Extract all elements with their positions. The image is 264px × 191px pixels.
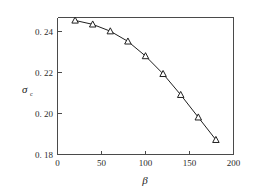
x-tick-label: 0 — [55, 158, 60, 168]
x-axis-title: β — [141, 174, 148, 186]
x-tick-label: 50 — [97, 158, 107, 168]
x-tick-label: 200 — [227, 158, 241, 168]
y-tick-label: 0. 20 — [35, 109, 54, 119]
y-tick-label: 0. 22 — [35, 68, 53, 78]
y-axis-title-subscript: c — [30, 91, 33, 97]
y-tick-label: 0. 18 — [35, 150, 54, 160]
y-tick-label: 0. 24 — [35, 27, 54, 37]
line-chart: 0. 18 0. 20 0. 22 0. 24 0 50 100 150 200… — [0, 0, 264, 191]
y-axis-title-symbol: σ — [22, 83, 28, 95]
x-tick-label: 100 — [139, 158, 153, 168]
x-tick-label: 150 — [183, 158, 197, 168]
chart-figure: 0. 18 0. 20 0. 22 0. 24 0 50 100 150 200… — [0, 0, 264, 191]
